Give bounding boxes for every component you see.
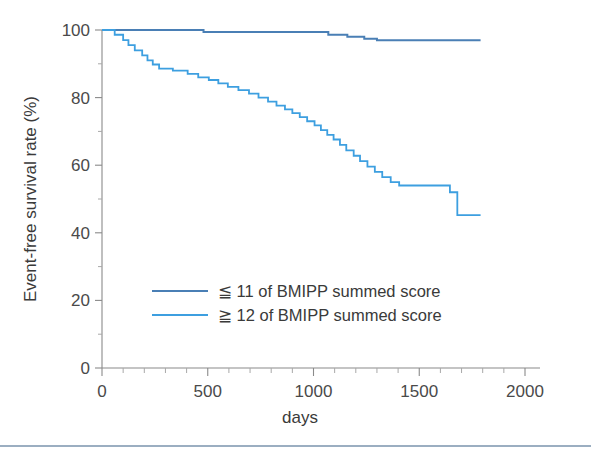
y-tick-label-100: 100 <box>62 21 90 40</box>
y-tick-label-60: 60 <box>71 156 90 175</box>
legend-label-high: ≧ 12 of BMIPP summed score <box>218 306 442 324</box>
x-tick-label-1500: 1500 <box>400 382 438 401</box>
y-axis-title: Event-free survival rate (%) <box>21 96 40 302</box>
x-tick-label-0: 0 <box>97 382 106 401</box>
x-tick-label-2000: 2000 <box>506 382 544 401</box>
y-tick-label-80: 80 <box>71 89 90 108</box>
legend-label-low: ≦ 11 of BMIPP summed score <box>218 282 440 300</box>
y-tick-label-0: 0 <box>81 359 90 378</box>
x-tick-label-500: 500 <box>194 382 222 401</box>
figure-container: 020406080100 0500100015002000 ≦ 11 of BM… <box>0 0 591 467</box>
kaplan-meier-chart: 020406080100 0500100015002000 ≦ 11 of BM… <box>0 0 591 467</box>
y-tick-label-40: 40 <box>71 224 90 243</box>
y-tick-label-20: 20 <box>71 291 90 310</box>
x-tick-label-1000: 1000 <box>295 382 333 401</box>
x-axis-title: days <box>282 408 318 427</box>
